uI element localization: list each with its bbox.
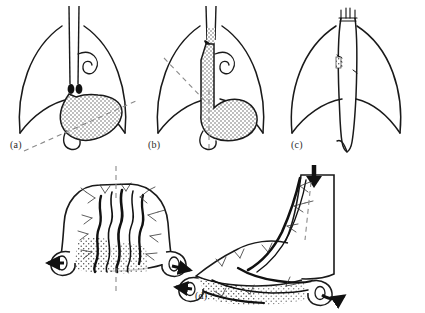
- panel-a-group: [19, 6, 136, 151]
- stomach-body-a: [60, 94, 122, 140]
- gastric-tube-c: [338, 18, 347, 152]
- anastomosis-sutures-c: [339, 8, 357, 21]
- figure-illustration: [0, 0, 425, 313]
- panel-d-right-group: [176, 165, 344, 305]
- esophagus-a: [69, 6, 79, 84]
- panel-label-a: (a): [10, 139, 22, 150]
- vagus-nerve-curl-a: [78, 52, 97, 73]
- figure-container: (a) (b) (c) (d): [0, 0, 425, 313]
- diaphragm-outline-c: [291, 26, 400, 133]
- panel-c-group: [291, 8, 400, 152]
- stippled-submucosa-d-left: [74, 237, 110, 273]
- panel-label-c: (c): [291, 139, 303, 150]
- staple-line-marks-c: [336, 55, 357, 73]
- panel-d-left-group: [48, 166, 190, 293]
- oblique-dashed-line-b: [164, 58, 206, 102]
- panel-b-group: [157, 6, 263, 152]
- arrow-right-d-right: [322, 295, 344, 299]
- vagus-nerve-curl-b: [215, 52, 234, 73]
- rolled-cut-edge-right-d: [162, 252, 186, 277]
- panel-label-b: (b): [148, 139, 160, 150]
- ge-junction-marker-a: [68, 84, 83, 94]
- gastric-tube-c-right: [347, 18, 357, 152]
- rolled-cut-edge-right-d-right: [308, 281, 332, 306]
- arrow-left-d-right: [176, 287, 192, 289]
- panel-label-d: (d): [195, 290, 207, 301]
- esophagus-stippled-segment-b: [207, 28, 215, 44]
